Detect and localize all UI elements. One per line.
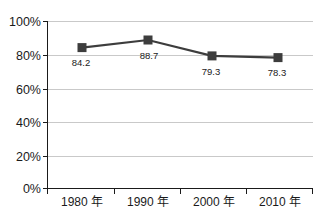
data-point-marker-1990 — [144, 36, 153, 45]
line-chart: 100% 80% 60% 40% 20% 0% 1980 年 1990 年 20… — [0, 0, 328, 223]
x-tick-label-1980: 1980 年 — [61, 195, 103, 209]
gridlines — [47, 22, 313, 157]
data-value-labels: 84.2 88.7 79.3 78.3 — [72, 50, 287, 78]
data-label-2000: 79.3 — [202, 66, 221, 77]
chart-canvas: 100% 80% 60% 40% 20% 0% 1980 年 1990 年 20… — [0, 0, 328, 223]
data-point-marker-2010 — [274, 53, 283, 62]
y-axis — [43, 21, 48, 189]
data-label-2010: 78.3 — [268, 67, 287, 78]
y-tick-label-40: 40% — [16, 116, 41, 130]
y-tick-label-100: 100% — [9, 15, 41, 29]
data-label-1990: 88.7 — [140, 50, 159, 61]
y-tick-label-20: 20% — [16, 150, 41, 164]
x-tick-label-2010: 2010 年 — [259, 195, 301, 209]
x-tick-label-2000: 2000 年 — [193, 195, 235, 209]
y-tick-label-0: 0% — [23, 182, 41, 196]
data-point-marker-2000 — [208, 51, 217, 60]
data-label-1980: 84.2 — [72, 57, 91, 68]
data-series — [78, 36, 283, 63]
y-tick-label-60: 60% — [16, 83, 41, 97]
y-tick-label-80: 80% — [16, 49, 41, 63]
series-line-path — [82, 40, 278, 58]
x-axis-tick-labels: 1980 年 1990 年 2000 年 2010 年 — [61, 195, 301, 209]
y-axis-tick-labels: 100% 80% 60% 40% 20% 0% — [9, 15, 41, 196]
data-point-marker-1980 — [78, 43, 87, 52]
x-tick-label-1990: 1990 年 — [127, 195, 169, 209]
x-axis — [47, 189, 313, 194]
